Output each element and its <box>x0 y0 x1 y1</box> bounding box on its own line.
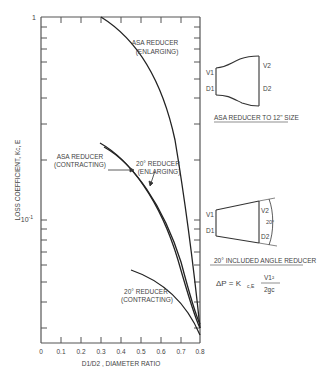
svg-text:0.4: 0.4 <box>116 348 125 355</box>
svg-text:V1²: V1² <box>264 274 275 281</box>
pressure-drop-formula: ΔP = K c,E V1² 2gc <box>216 274 280 294</box>
label-20-contracting-1: 20° REDUCER <box>124 288 168 295</box>
svg-text:0.5: 0.5 <box>136 348 145 355</box>
angle-label: 20° <box>266 219 274 225</box>
x-axis-title: D1/D2 , DIAMETER RATIO <box>82 360 161 367</box>
angle-v2-label: V2 <box>261 207 269 214</box>
svg-text:0.3: 0.3 <box>96 348 105 355</box>
label-20-enlarging-2: (ENLARGING) <box>138 168 181 176</box>
angle-caption: 20° INCLUDED ANGLE REDUCER <box>214 257 317 264</box>
label-asa-contracting-2: (CONTRACTING) <box>54 161 106 169</box>
asa-caption: ASA REDUCER TO 12" SIZE <box>214 114 299 121</box>
asa-d2-label: D2 <box>263 85 272 92</box>
svg-text:0.1: 0.1 <box>56 348 65 355</box>
svg-text:2gc: 2gc <box>264 286 275 294</box>
svg-text:ΔP = K: ΔP = K <box>216 279 242 288</box>
label-asa-enlarging-1: ASA REDUCER <box>132 39 179 46</box>
curve-labels: ASA REDUCER (ENLARGING) ASA REDUCER (CON… <box>54 39 180 304</box>
x-tick-labels: 0 0.1 0.2 0.3 0.4 0.5 0.6 0.7 0.8 <box>39 348 205 355</box>
angle-d2-label: D2 <box>261 233 270 240</box>
svg-text:0: 0 <box>39 348 43 355</box>
label-20-contracting-2: (CONTRACTING) <box>121 296 173 304</box>
svg-text:0.6: 0.6 <box>156 348 165 355</box>
y-axis-title: LOSS COEFFICIENT, Kc, E <box>14 139 21 221</box>
chart-canvas: 0 0.1 0.2 0.3 0.4 0.5 0.6 0.7 0.8 1 10-1… <box>0 0 321 377</box>
asa-d1-label: D1 <box>206 85 215 92</box>
plot-frame <box>41 17 200 343</box>
label-asa-contracting-1: ASA REDUCER <box>57 153 104 160</box>
label-asa-enlarging-2: (ENLARGING) <box>136 48 179 56</box>
svg-text:0.7: 0.7 <box>176 348 185 355</box>
svg-text:0.2: 0.2 <box>76 348 85 355</box>
y-tick-label-1: 1 <box>32 14 36 21</box>
y-tick-label-0.1: 10-1 <box>21 214 33 223</box>
asa-reducer-diagram <box>216 56 259 106</box>
y-ticks-left <box>41 27 47 328</box>
svg-text:0.8: 0.8 <box>195 348 204 355</box>
angle-d1-label: D1 <box>206 227 215 234</box>
label-20-enlarging-1: 20° REDUCER <box>136 160 180 167</box>
angle-v1-label: V1 <box>206 211 214 218</box>
svg-text:c,E: c,E <box>247 283 255 289</box>
asa-v2-label: V2 <box>263 62 271 69</box>
asa-v1-label: V1 <box>206 69 214 76</box>
